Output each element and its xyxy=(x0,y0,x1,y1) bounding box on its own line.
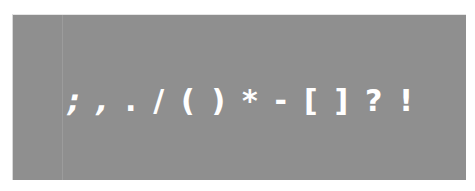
glyph-close-paren: ) xyxy=(212,83,226,119)
card-divider-line xyxy=(62,15,63,180)
glyph-period: . xyxy=(125,83,136,119)
glyph-question-mark: ? xyxy=(365,83,382,119)
glyph-asterisk: * xyxy=(242,83,258,119)
glyph-open-bracket: [ xyxy=(304,83,318,119)
glyph-slash: / xyxy=(153,83,164,119)
glyph-open-paren: ( xyxy=(181,83,195,119)
glyph-hyphen: - xyxy=(275,83,287,119)
glyph-semicolon: ; xyxy=(64,83,84,119)
punctuation-glyph-row: ; , . / ( ) * - [ ] ? ! xyxy=(68,83,413,119)
glyph-exclamation-mark: ! xyxy=(399,83,413,119)
punctuation-card: ; , . / ( ) * - [ ] ? ! xyxy=(12,14,466,180)
glyph-close-bracket: ] xyxy=(334,83,348,119)
glyph-comma: , xyxy=(93,83,112,119)
